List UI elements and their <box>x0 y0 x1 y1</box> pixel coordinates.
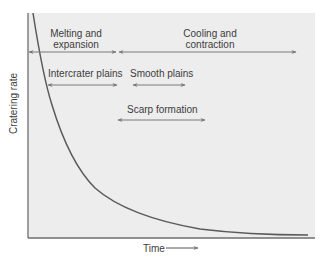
scarp-formation-label: Scarp formation <box>127 104 198 115</box>
x-axis-label: Time <box>143 243 165 254</box>
y-axis-label: Cratering rate <box>8 69 19 139</box>
cratering-rate-diagram: Melting and expansion Cooling and contra… <box>0 0 325 259</box>
melting-expansion-label: Melting and expansion <box>38 28 114 50</box>
cooling-contraction-label: Cooling and contraction <box>170 28 250 50</box>
intercrater-plains-label: Intercrater plains <box>48 68 122 79</box>
smooth-plains-label: Smooth plains <box>130 68 193 79</box>
